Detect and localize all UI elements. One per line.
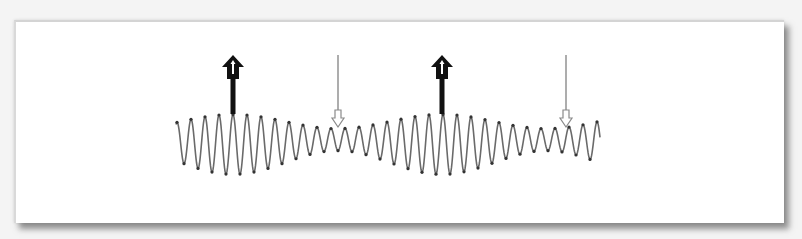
wave-point [238,173,241,176]
wave-point [217,113,220,116]
wave-point [175,121,178,124]
wave-point [336,149,339,152]
wave-point [378,157,381,160]
wave-point [427,113,430,116]
thin-down-arrow-icon [560,55,572,127]
wave-point [420,171,423,174]
wave-point [448,172,451,175]
wave-point [259,115,262,118]
wave-point [483,118,486,121]
beat-wave-diagram [0,0,802,239]
wave-point [301,124,304,127]
wave-point [308,153,311,156]
wave-point [182,162,185,165]
wave-point [287,121,290,124]
wave-point [343,127,346,130]
wave-point [189,118,192,121]
interference-markers [222,55,572,127]
wave-point [588,158,591,161]
wave-point [371,123,374,126]
wave-point [273,118,276,121]
wave-point [322,150,325,153]
wave-point [392,162,395,165]
wave-point [280,162,283,165]
thick-up-arrow-icon [222,55,244,114]
wave-point [294,157,297,160]
wave-point [224,173,227,176]
wave-point [399,118,402,121]
wave-point [567,125,570,128]
wave-point [455,113,458,116]
wave-point [581,123,584,126]
wave-point [203,115,206,118]
wave-point [595,120,598,123]
wave-point [497,121,500,124]
wave-point [413,115,416,118]
wave-point [266,167,269,170]
wave-point [329,127,332,130]
wave-point [518,153,521,156]
wave-point [490,162,493,165]
wave-point [364,153,367,156]
wave-point [350,150,353,153]
wave-point [315,126,318,129]
wave-point [504,157,507,160]
wave-point [476,166,479,169]
wave-point [574,153,577,156]
wave-point [532,150,535,153]
wave-point [462,170,465,173]
wave-point [210,170,213,173]
wave-point [434,173,437,176]
wave-point [553,127,556,130]
wave-point [546,149,549,152]
thin-down-arrow-icon [332,55,344,127]
wave-point [196,167,199,170]
thick-up-arrow-icon [431,55,453,114]
wave-point [406,167,409,170]
wave-point [385,120,388,123]
wave-point [539,127,542,130]
wave-point [525,126,528,129]
wave-point [511,124,514,127]
wave-point [357,126,360,129]
wave-point [245,113,248,116]
beat-waveform [176,114,600,174]
wave-point [469,115,472,118]
wave-point [560,150,563,153]
wave-point [252,170,255,173]
